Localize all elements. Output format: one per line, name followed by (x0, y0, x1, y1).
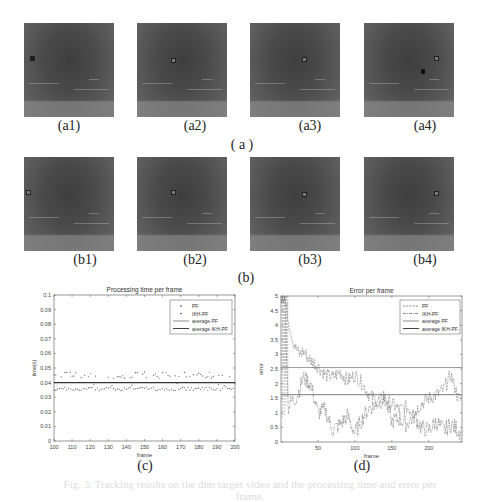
label-a2: (a2) (150, 118, 240, 134)
svg-text:4: 4 (275, 322, 278, 328)
svg-text:time(s): time(s) (31, 359, 37, 376)
label-b2: (b2) (150, 252, 240, 268)
svg-text:200: 200 (424, 445, 433, 451)
image-b2 (137, 157, 227, 251)
svg-text:1.5: 1.5 (270, 395, 278, 401)
svg-text:PF: PF (422, 303, 428, 309)
svg-text:180: 180 (194, 444, 203, 450)
label-a3: (a3) (265, 118, 355, 134)
svg-text:0: 0 (275, 439, 278, 445)
target-marker (171, 58, 176, 63)
label-b3: (b3) (265, 252, 355, 268)
target-blob (421, 69, 425, 74)
svg-text:2: 2 (275, 381, 278, 387)
target-marker (30, 56, 35, 61)
svg-text:1: 1 (275, 410, 278, 416)
svg-text:140: 140 (122, 444, 131, 450)
image-b1 (24, 157, 114, 251)
label-a1: (a1) (24, 118, 114, 134)
svg-text:0.5: 0.5 (270, 424, 278, 430)
svg-text:0.1: 0.1 (43, 292, 51, 298)
svg-text:3.5: 3.5 (270, 337, 278, 343)
svg-text:5: 5 (275, 293, 278, 299)
svg-text:3: 3 (275, 351, 278, 357)
image-a1 (24, 23, 114, 117)
image-a4 (364, 23, 454, 117)
svg-text:4.5: 4.5 (270, 308, 278, 314)
target-marker (434, 56, 439, 61)
svg-text:150: 150 (140, 444, 149, 450)
svg-text:IKH-PF: IKH-PF (192, 311, 208, 317)
svg-text:average PF: average PF (192, 318, 218, 324)
group-label-a: ( a ) (212, 137, 272, 153)
svg-text:average PF: average PF (422, 318, 448, 324)
svg-text:0.05: 0.05 (40, 365, 51, 371)
svg-text:120: 120 (86, 444, 95, 450)
svg-text:100: 100 (49, 444, 58, 450)
svg-text:Processing time per frame: Processing time per frame (107, 286, 183, 294)
svg-text:150: 150 (387, 445, 396, 451)
svg-text:0.02: 0.02 (40, 409, 51, 415)
svg-text:190: 190 (212, 444, 221, 450)
svg-text:110: 110 (68, 444, 77, 450)
svg-text:200: 200 (230, 444, 239, 450)
svg-text:Error per frame: Error per frame (349, 287, 393, 295)
label-c: (c) (115, 458, 175, 474)
label-b4: (b4) (380, 252, 470, 268)
svg-text:IKH-PF: IKH-PF (422, 311, 438, 317)
image-b4 (364, 157, 454, 251)
svg-text:50: 50 (315, 445, 321, 451)
label-d: (d) (332, 458, 392, 474)
target-marker (171, 190, 176, 195)
target-marker (26, 190, 31, 195)
svg-text:130: 130 (104, 444, 113, 450)
svg-text:160: 160 (158, 444, 167, 450)
svg-text:0.03: 0.03 (40, 394, 51, 400)
svg-text:0.08: 0.08 (40, 321, 51, 327)
target-marker (302, 57, 307, 62)
label-a4: (a4) (380, 118, 470, 134)
target-marker (302, 192, 307, 197)
svg-text:error: error (258, 363, 264, 375)
svg-text:average IKH-PF: average IKH-PF (192, 326, 228, 332)
target-marker (434, 191, 439, 196)
svg-text:2.5: 2.5 (270, 366, 278, 372)
svg-text:0.06: 0.06 (40, 350, 51, 356)
image-b3 (250, 157, 340, 251)
label-b1: (b1) (40, 252, 130, 268)
figure-caption: Fig. 3. Tracking results on the dim targ… (60, 478, 440, 502)
image-a3 (250, 23, 340, 117)
svg-text:170: 170 (176, 444, 185, 450)
svg-text:0.04: 0.04 (40, 380, 51, 386)
chart-error-per-frame: Error per frame00.511.522.533.544.555010… (240, 283, 484, 458)
svg-text:average IKH-PF: average IKH-PF (422, 326, 458, 332)
svg-text:100: 100 (350, 445, 359, 451)
svg-text:0.09: 0.09 (40, 307, 51, 313)
svg-text:0.07: 0.07 (40, 336, 51, 342)
svg-text:0.01: 0.01 (40, 423, 51, 429)
image-a2 (137, 23, 227, 117)
svg-text:PF: PF (192, 303, 198, 309)
chart-processing-time: Processing time per frame00.010.020.030.… (0, 283, 245, 458)
